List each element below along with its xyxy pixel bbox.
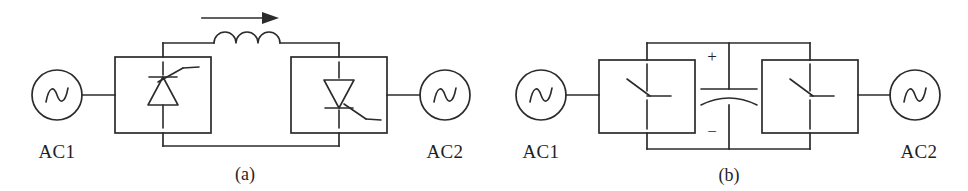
current-direction-arrow-a: [202, 12, 279, 24]
thyristor-triangle: [148, 77, 178, 105]
panel-a: AC1: [0, 0, 484, 191]
sine-wave-icon: [530, 88, 552, 102]
thyristor-gate-lead: [183, 67, 199, 68]
panel-caption-b: (b): [719, 165, 740, 186]
sine-wave-icon: [434, 88, 456, 102]
ac-source-right-a: [387, 70, 470, 120]
polarity-plus-label: +: [707, 47, 717, 66]
thyristor-symbol-right-a: [324, 62, 381, 128]
dc-link-bottom-a: [163, 133, 339, 146]
ac2-label-a: AC2: [427, 141, 464, 162]
thyristor-triangle: [324, 80, 354, 108]
ac1-label-b: AC1: [523, 141, 560, 162]
inductor-coils: [214, 32, 280, 43]
ac-source-left-a: [32, 70, 115, 120]
arrow-head: [262, 12, 279, 24]
ac2-label-b: AC2: [901, 141, 938, 162]
thyristor-symbol-left-a: [148, 62, 199, 128]
thyristor-gate-lead: [366, 119, 381, 120]
panel-b: AC1: [484, 0, 968, 191]
ac1-label-a: AC1: [39, 141, 76, 162]
transistor-switch-right-b: [790, 64, 834, 129]
capacitor-plate-bottom-curved: [701, 98, 757, 105]
figure-root: AC1: [0, 0, 968, 191]
sine-wave-icon: [46, 88, 68, 102]
dc-link-top-a: [163, 32, 339, 57]
sine-wave-icon: [904, 88, 926, 102]
ac-source-right-b: [858, 70, 940, 120]
ac-source-left-b: [516, 70, 599, 120]
polarity-minus-label: −: [707, 122, 717, 141]
thyristor-gate-diagonal: [344, 104, 366, 119]
thyristor-gate-diagonal: [158, 68, 183, 82]
panel-caption-a: (a): [235, 164, 255, 185]
transistor-switch-left-b: [627, 64, 671, 129]
